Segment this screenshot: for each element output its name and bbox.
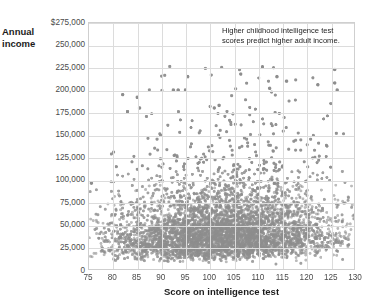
- y-axis-tick-label: 100,000: [1, 175, 85, 184]
- x-axis-tick-label: 130: [342, 273, 368, 283]
- gridline-vertical: [332, 23, 333, 269]
- x-axis-tick-label: 100: [196, 273, 222, 283]
- x-axis-tick-labels: 7580859095100105110115120125130: [88, 273, 355, 285]
- y-axis-tick-label: $275,000: [1, 18, 85, 27]
- gridline-vertical: [162, 23, 163, 269]
- gridline-vertical: [138, 23, 139, 269]
- scatter-chart-figure: Annual income 025,00050,00075,000100,000…: [0, 0, 368, 305]
- x-axis-tick-label: 75: [75, 273, 101, 283]
- gridline-horizontal: [89, 68, 354, 69]
- x-axis-tick-label: 80: [99, 273, 125, 283]
- y-axis-tick-label: 175,000: [1, 108, 85, 117]
- gridline-vertical: [283, 23, 284, 269]
- gridline-vertical: [210, 23, 211, 269]
- x-axis-tick-label: 125: [318, 273, 344, 283]
- x-axis-tick-label: 95: [172, 273, 198, 283]
- x-axis-tick-label: 115: [269, 273, 295, 283]
- y-axis-tick-label: 225,000: [1, 63, 85, 72]
- chart-annotation: Higher childhood intelligence test score…: [222, 26, 350, 46]
- x-axis-tick-label: 110: [245, 273, 271, 283]
- gridline-horizontal: [89, 23, 354, 24]
- gridline-horizontal: [89, 226, 354, 227]
- y-axis-tick-label: 75,000: [1, 198, 85, 207]
- y-axis-tick-label: 25,000: [1, 243, 85, 252]
- x-axis-tick-label: 120: [293, 273, 319, 283]
- y-axis-tick-label: 150,000: [1, 130, 85, 139]
- gridline-horizontal: [89, 136, 354, 137]
- gridline-vertical: [235, 23, 236, 269]
- x-axis-tick-label: 90: [148, 273, 174, 283]
- y-axis-tick-label: 200,000: [1, 85, 85, 94]
- x-axis-tick-label: 85: [124, 273, 150, 283]
- gridline-horizontal: [89, 203, 354, 204]
- gridline-horizontal: [89, 91, 354, 92]
- y-axis-tick-label: 250,000: [1, 40, 85, 49]
- gridline-horizontal: [89, 181, 354, 182]
- x-axis-tick-label: 105: [221, 273, 247, 283]
- scatter-points-canvas: [89, 23, 354, 269]
- gridline-vertical: [307, 23, 308, 269]
- y-axis-tick-label: 125,000: [1, 153, 85, 162]
- y-axis-tick-label: 0: [1, 266, 85, 275]
- gridline-horizontal: [89, 158, 354, 159]
- plot-area: [88, 22, 355, 270]
- gridline-vertical: [113, 23, 114, 269]
- gridline-horizontal: [89, 248, 354, 249]
- gridline-vertical: [186, 23, 187, 269]
- gridline-vertical: [259, 23, 260, 269]
- x-axis-title: Score on intelligence test: [88, 286, 355, 297]
- y-axis-tick-label: 50,000: [1, 220, 85, 229]
- gridline-horizontal: [89, 113, 354, 114]
- y-axis-tick-labels: 025,00050,00075,000100,000125,000150,000…: [0, 0, 85, 305]
